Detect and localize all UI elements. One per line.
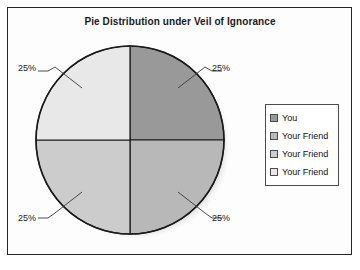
legend-swatch-icon <box>270 132 278 140</box>
slice-percent-label-top-left: 25% <box>18 63 36 73</box>
pie-chart-figure: Pie Distribution under Veil of Ignorance… <box>0 0 360 270</box>
legend-item[interactable]: You <box>270 109 335 127</box>
pie-slice-your-friend-1[interactable] <box>130 140 224 234</box>
legend-item-label: Your Friend <box>282 150 328 159</box>
legend-swatch-icon <box>270 168 278 176</box>
legend-item-label: Your Friend <box>282 168 328 177</box>
legend-item-label: Your Friend <box>282 132 328 141</box>
pie-slice-your-friend-3[interactable] <box>36 46 130 140</box>
legend-item[interactable]: Your Friend <box>270 163 335 181</box>
leader-line-bottom-left-elbow <box>38 213 55 218</box>
pie-slice-your-friend-2[interactable] <box>36 140 130 234</box>
legend-item[interactable]: Your Friend <box>270 127 335 145</box>
legend-swatch-icon <box>270 150 278 158</box>
slice-percent-label-bottom-right: 25% <box>212 213 230 223</box>
legend-item-label: You <box>282 114 297 123</box>
slice-percent-label-top-right: 25% <box>212 63 230 73</box>
legend-swatch-icon <box>270 114 278 122</box>
chart-legend: You Your Friend Your Friend Your Friend <box>265 104 339 186</box>
legend-item[interactable]: Your Friend <box>270 145 335 163</box>
leader-line-top-left-elbow <box>38 67 55 71</box>
pie-slice-you[interactable] <box>130 46 224 140</box>
slice-percent-label-bottom-left: 25% <box>18 213 36 223</box>
